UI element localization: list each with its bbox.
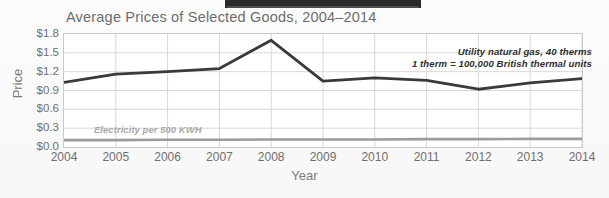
annotation-natural-gas: Utility natural gas, 40 therms 1 therm =… [380, 46, 592, 69]
x-tick-label: 2004 [51, 150, 78, 164]
x-tick-label: 2010 [361, 150, 388, 164]
x-tick-label: 2007 [206, 150, 233, 164]
x-tick-label: 2013 [517, 150, 544, 164]
x-tick-label: 2014 [569, 150, 596, 164]
x-tick-label: 2008 [258, 150, 285, 164]
x-tick-label: 2006 [154, 150, 181, 164]
x-tick-label: 2012 [465, 150, 492, 164]
x-tick-label: 2011 [414, 150, 440, 164]
annotation-electricity: Electricity per 500 KWH [94, 124, 202, 135]
x-tick-label: 2009 [310, 150, 337, 164]
x-tick-label: 2005 [102, 150, 129, 164]
annotation-natural-gas-line1: Utility natural gas, 40 therms [380, 46, 592, 58]
annotation-natural-gas-line2: 1 therm = 100,000 British thermal units [380, 58, 592, 70]
chart-figure: Average Prices of Selected Goods, 2004–2… [0, 0, 609, 198]
